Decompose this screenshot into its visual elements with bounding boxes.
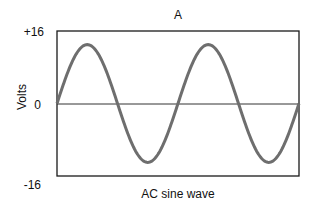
sine-wave-chart: A +16 0 -16 Volts AC sine wave (0, 0, 318, 216)
chart-title: A (174, 8, 182, 22)
x-axis-label: AC sine wave (141, 187, 215, 201)
y-axis-label: Volts (15, 84, 29, 110)
ytick-bottom: -16 (24, 178, 42, 192)
ytick-zero: 0 (34, 98, 41, 112)
ytick-top: +16 (24, 25, 45, 39)
